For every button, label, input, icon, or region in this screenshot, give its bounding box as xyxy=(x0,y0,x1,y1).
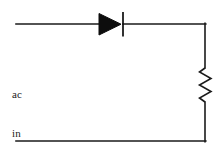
ac-input-label-line2: in xyxy=(12,127,24,140)
ac-input-label-line1: ac xyxy=(12,88,24,101)
circuit-schematic-svg xyxy=(0,0,222,153)
resistor-zigzag-icon xyxy=(200,68,212,102)
circuit-diagram-canvas: ac in xyxy=(0,0,222,153)
ac-input-label: ac in xyxy=(12,62,24,153)
diode-triangle-icon xyxy=(99,14,121,36)
